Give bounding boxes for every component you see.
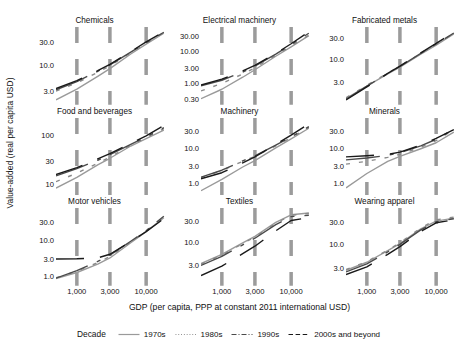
x-tick-label: 1,000: [212, 287, 231, 296]
facet-food-and-beverages: Food and beverages1003010: [22, 105, 167, 196]
x-axis: 1,0003,00010,000: [56, 287, 167, 299]
facet-machinery: Machinery30.010.03.01.0: [167, 105, 312, 196]
legend-item-1990s[interactable]: 1990s: [231, 330, 279, 339]
y-tick-label: 10: [46, 180, 54, 189]
plot-panel: [201, 118, 312, 196]
facet-fabricated-metals: Fabricated metals30.010.03.0: [312, 14, 457, 105]
legend-label: 1990s: [257, 330, 279, 339]
y-tick-label: 100: [41, 130, 54, 139]
plot-panel: [56, 27, 167, 105]
x-axis-title: GDP (per capita, PPP at constant 2011 in…: [22, 300, 457, 314]
x-axis: 1,0003,00010,000: [346, 287, 457, 299]
y-tick-label: 10.00: [180, 47, 199, 56]
plot-panel: [201, 208, 312, 286]
y-tick-label: 30.0: [329, 126, 344, 135]
facet-title: Wearing apparel: [312, 195, 457, 208]
plot-panel: [346, 208, 457, 286]
y-tick-label: 1.00: [184, 78, 199, 87]
y-tick-label: 30.0: [329, 218, 344, 227]
plot-panel: [56, 208, 167, 286]
facet-electrical-machinery: Electrical machinery30.0010.003.001.000.…: [167, 14, 312, 105]
y-tick-label: 10.0: [329, 143, 344, 152]
legend-title: Decade: [77, 329, 106, 339]
y-tick-label: 30.0: [39, 217, 54, 226]
x-tick-label: 1,000: [357, 287, 376, 296]
chart-legend: Decade 1970s1980s1990s2000s and beyond: [0, 326, 457, 342]
y-tick-label: 10.0: [184, 143, 199, 152]
x-axis: 1,0003,00010,000: [201, 287, 312, 299]
legend-label: 1970s: [144, 330, 166, 339]
y-tick-label: 10.0: [184, 238, 199, 247]
chart-root: Value-added (real per capita USD) Chemic…: [0, 0, 457, 352]
y-axis: 1003010: [22, 118, 56, 196]
y-tick-label: 3.0: [188, 162, 199, 171]
facet-title: Motor vehicles: [22, 195, 167, 208]
y-axis-title: Value-added (real per capita USD): [0, 0, 21, 285]
legend-label: 1980s: [201, 330, 223, 339]
y-tick-label: 10.0: [39, 61, 54, 70]
facet-title: Fabricated metals: [312, 14, 457, 27]
y-tick-label: 30.00: [180, 32, 199, 41]
plot-panel: [56, 118, 167, 196]
x-tick-label: 10,000: [135, 287, 158, 296]
legend-label: 2000s and beyond: [314, 330, 380, 339]
y-tick-label: 3.0: [43, 87, 54, 96]
plot-panel: [346, 118, 457, 196]
x-tick-label: 3,000: [245, 287, 264, 296]
y-tick-label: 10.0: [329, 55, 344, 64]
y-tick-label: 30.0: [39, 37, 54, 46]
facet-title: Minerals: [312, 105, 457, 118]
legend-item-1970s[interactable]: 1970s: [118, 330, 166, 339]
legend-key-dotted: [175, 330, 197, 339]
facet-chemicals: Chemicals30.010.03.0: [22, 14, 167, 105]
y-tick-label: 3.0: [333, 77, 344, 86]
x-tick-label: 3,000: [100, 287, 119, 296]
y-tick-label: 1.0: [333, 179, 344, 188]
y-tick-label: 1.0: [43, 272, 54, 281]
x-tick-label: 3,000: [390, 287, 409, 296]
x-tick-label: 10,000: [280, 287, 303, 296]
y-tick-label: 30.0: [329, 34, 344, 43]
y-tick-label: 3.0: [188, 261, 199, 270]
y-tick-label: 10.0: [39, 235, 54, 244]
x-tick-label: 1,000: [67, 287, 86, 296]
y-axis: 30.010.03.0: [167, 208, 201, 286]
legend-key-dash-dot: [231, 330, 253, 339]
facet-textiles: Textiles30.010.03.01,0003,00010,000: [167, 195, 312, 286]
legend-item-1980s[interactable]: 1980s: [175, 330, 223, 339]
y-tick-label: 3.0: [333, 162, 344, 171]
y-axis: 30.010.03.0: [22, 27, 56, 105]
y-tick-label: 30.0: [184, 217, 199, 226]
y-axis: 30.010.03.0: [312, 27, 346, 105]
y-tick-label: 30: [46, 156, 54, 165]
facet-grid: Chemicals30.010.03.0Electrical machinery…: [22, 14, 457, 286]
facet-motor-vehicles: Motor vehicles30.010.03.01.01,0003,00010…: [22, 195, 167, 286]
legend-key-dashed: [288, 330, 310, 339]
facet-title: Chemicals: [22, 14, 167, 27]
x-tick-label: 10,000: [425, 287, 448, 296]
legend-item-2000s-and-beyond[interactable]: 2000s and beyond: [288, 330, 380, 339]
legend-key-solid: [118, 330, 140, 339]
y-tick-label: 3.0: [43, 254, 54, 263]
facet-title: Textiles: [167, 195, 312, 208]
plot-panel: [346, 27, 457, 105]
facet-wearing-apparel: Wearing apparel30.010.03.01,0003,00010,0…: [312, 195, 457, 286]
plot-panel: [201, 27, 312, 105]
y-axis: 30.010.03.01.0: [22, 208, 56, 286]
y-axis: 30.010.03.01.0: [167, 118, 201, 196]
y-axis: 30.0010.003.001.000.30: [167, 27, 201, 105]
facet-minerals: Minerals30.010.03.01.0: [312, 105, 457, 196]
y-tick-label: 3.0: [333, 263, 344, 272]
facet-title: Machinery: [167, 105, 312, 118]
y-tick-label: 30.0: [184, 126, 199, 135]
facet-title: Food and beverages: [22, 105, 167, 118]
y-axis: 30.010.03.0: [312, 208, 346, 286]
facet-title: Electrical machinery: [167, 14, 312, 27]
y-tick-label: 3.00: [184, 63, 199, 72]
y-tick-label: 1.0: [188, 179, 199, 188]
y-tick-label: 10.0: [329, 239, 344, 248]
y-axis: 30.010.03.01.0: [312, 118, 346, 196]
y-tick-label: 0.30: [184, 95, 199, 104]
